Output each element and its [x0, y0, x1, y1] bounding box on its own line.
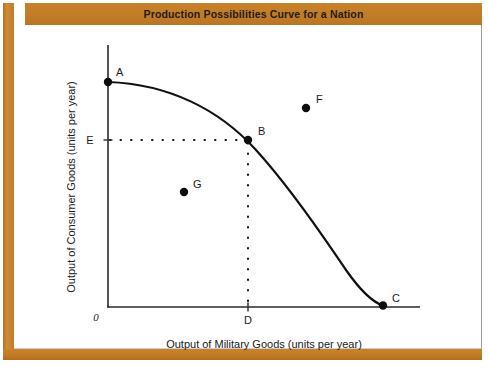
- data-point-g: [180, 188, 188, 196]
- data-point-label-c: C: [392, 292, 400, 304]
- data-point-c: [379, 301, 387, 309]
- data-point-f: [302, 104, 310, 112]
- data-point-label-a: A: [116, 66, 124, 78]
- y-axis-title: Output of Consumer Goods (units per year…: [65, 81, 77, 293]
- y-axis-tick-label-e: E: [86, 134, 93, 146]
- figure-container: Production Possibilities Curve for a Nat…: [0, 0, 488, 369]
- data-point-a: [104, 78, 112, 86]
- data-point-label-b: B: [258, 125, 265, 137]
- data-point-label-f: F: [316, 93, 323, 105]
- data-point-b: [244, 136, 252, 144]
- origin-label: 0: [93, 311, 99, 323]
- chart-svg: A B C F G E D 0 Output of Military Goods…: [0, 0, 488, 369]
- x-axis-title: Output of Military Goods (units per year…: [166, 338, 362, 350]
- data-point-label-g: G: [193, 178, 202, 190]
- ppc-curve: [108, 82, 383, 306]
- x-axis-tick-label-d: D: [244, 314, 252, 326]
